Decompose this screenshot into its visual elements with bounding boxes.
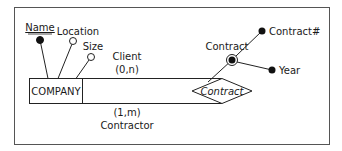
identifier-dot-icon: [269, 67, 276, 74]
identifier-dot-icon: [259, 28, 266, 35]
component-year-label: Year: [278, 65, 301, 76]
attr-location-label: Location: [57, 26, 99, 37]
attr-name-label: Name: [25, 22, 55, 33]
er-diagram: COMPANY Contract Client (0,n) (1,m) Cont…: [0, 0, 342, 151]
role-contractor-label: Contractor: [100, 120, 154, 131]
entity-company-label: COMPANY: [31, 86, 81, 97]
attribute-circle-icon: [88, 54, 95, 61]
relationship-contract-label: Contract: [200, 86, 244, 97]
component-contract-number-label: Contract#: [269, 26, 320, 37]
attr-line-size: [76, 60, 89, 79]
attr-line-name: [40, 40, 48, 79]
role-client-cardinality: (0,n): [115, 64, 139, 75]
component-line-year: [237, 62, 272, 70]
identifier-dot-icon: [37, 37, 44, 44]
attr-line-location: [58, 44, 72, 79]
composite-identifier-inner-icon: [229, 57, 236, 64]
role-contractor-cardinality: (1,m): [113, 107, 140, 118]
attr-size-label: Size: [83, 41, 104, 52]
attribute-circle-icon: [70, 38, 77, 45]
role-client-label: Client: [113, 51, 142, 62]
